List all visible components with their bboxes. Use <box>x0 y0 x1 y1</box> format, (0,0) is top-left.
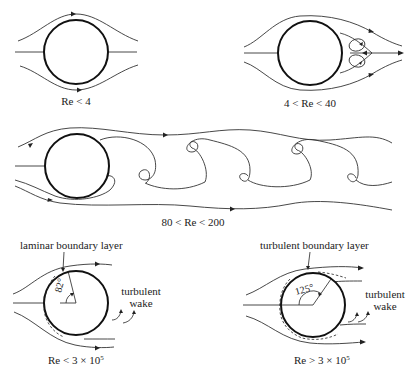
caption-80-lt-re-lt-200: 80 < Re < 200 <box>161 216 225 228</box>
turbulent-wake-label: turbulent <box>365 288 405 300</box>
label-pointer <box>308 252 310 268</box>
vortex-curve-4 <box>248 180 310 187</box>
turbulent-wake-label-line2: wake <box>129 297 152 309</box>
arrow-icon <box>77 88 82 93</box>
arrow-icon <box>359 61 362 65</box>
vortex-curve-2 <box>145 182 205 189</box>
arrow-icon <box>119 309 123 313</box>
panel-turbulent-separation: turbulent boundary layer 125° turbulent … <box>243 239 405 366</box>
arrow-icon <box>398 51 404 56</box>
turbulent-wake-label-line2: wake <box>373 300 396 312</box>
arrow-icon <box>362 51 367 56</box>
vortex-curve-6 <box>356 180 392 186</box>
caption-re-gt-3e5: Re > 3 × 105 <box>294 354 350 366</box>
eddy-lower <box>348 53 367 69</box>
turbulent-wake-label: turbulent <box>121 285 161 297</box>
caption-4-lt-re-lt-40: 4 < Re < 40 <box>284 97 337 109</box>
arrow-icon <box>132 310 136 314</box>
flow-regimes-diagram: Re < 4 4 < Re < 40 <box>0 0 412 372</box>
arrow-icon <box>71 12 76 17</box>
arrow-icon <box>95 262 100 267</box>
arrow-icon <box>28 143 33 148</box>
eddy-upper <box>348 37 367 53</box>
arrow-icon <box>358 266 364 271</box>
panel-creeping-flow: Re < 4 <box>15 12 138 108</box>
panel-laminar-separation: laminar boundary layer 82° turbulent wak… <box>13 239 161 366</box>
caption-re-lt-4: Re < 4 <box>61 95 91 107</box>
vortex-curve-3 <box>187 139 250 182</box>
caption-re-lt-3e5: Re < 3 × 105 <box>48 354 104 366</box>
panel-attached-eddies: 4 < Re < 40 <box>244 16 404 109</box>
arrow-icon <box>95 346 100 351</box>
laminar-boundary-layer-label: laminar boundary layer <box>20 239 123 251</box>
turbulent-boundary-layer-label: turbulent boundary layer <box>260 239 369 251</box>
arrow-icon <box>230 207 235 212</box>
arrow-icon <box>355 312 359 316</box>
panel-vortex-street: 80 < Re < 200 <box>15 128 392 228</box>
arrow-icon <box>366 311 370 315</box>
arrow-icon <box>163 133 168 138</box>
arrow-icon <box>360 340 366 345</box>
separated-streamline-lower <box>340 324 366 325</box>
cylinder <box>45 134 109 198</box>
arrow-icon <box>306 266 310 270</box>
vortex-curve-5 <box>292 139 358 181</box>
cylinder <box>44 20 108 84</box>
cylinder <box>278 21 342 85</box>
arrow-icon <box>61 268 65 272</box>
